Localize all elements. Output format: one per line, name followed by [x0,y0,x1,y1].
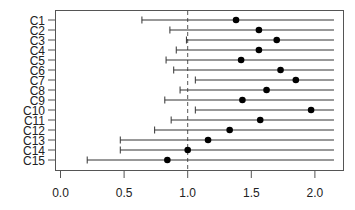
ci-row-c1 [142,17,334,24]
point-estimate [277,67,284,74]
y-axis: C1C2C3C4C5C6C7C8C9C10C11C12C13C14C15 [23,14,56,168]
ci-row-c6 [174,67,334,74]
point-estimate [256,47,263,54]
x-tick-label: 0.5 [116,186,133,200]
ci-row-c2 [170,27,334,34]
ci-row-c7 [195,77,334,84]
x-axis: 0.00.51.01.52.0 [52,171,323,200]
ci-row-c15 [87,157,334,164]
point-estimate [239,97,246,104]
point-estimate [263,87,270,94]
forest-plot: C1C2C3C4C5C6C7C8C9C10C11C12C13C14C15 0.0… [0,0,355,210]
point-estimate [184,147,191,154]
point-estimate [293,77,300,84]
x-tick-label: 1.0 [179,186,196,200]
x-tick-label: 0.0 [52,186,69,200]
ci-row-c8 [180,87,334,94]
point-estimate [205,137,212,144]
ci-row-c11 [171,117,334,124]
ci-row-c10 [195,107,334,114]
ci-row-c5 [166,57,334,64]
ci-row-c12 [155,127,334,134]
point-estimate [273,37,280,44]
ci-row-c9 [165,97,334,104]
point-estimate [226,127,233,134]
point-estimate [233,17,240,24]
ci-row-c4 [176,47,334,54]
point-estimate [257,117,264,124]
ci-row-c14 [120,147,334,154]
y-tick-label: C15 [23,154,45,168]
ci-rows [87,17,334,164]
point-estimate [308,107,315,114]
point-estimate [256,27,263,34]
ci-row-c3 [186,37,334,44]
point-estimate [238,57,245,64]
x-tick-label: 2.0 [307,186,324,200]
x-tick-label: 1.5 [243,186,260,200]
ci-row-c13 [120,137,334,144]
point-estimate [164,157,171,164]
